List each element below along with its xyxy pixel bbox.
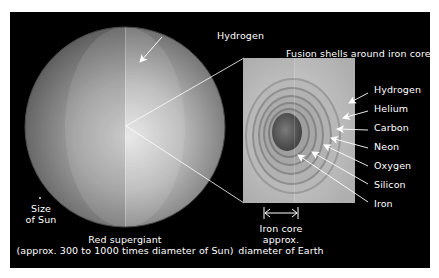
fusion-shells-inset bbox=[243, 58, 355, 203]
iron-core-caption-line1: Iron core bbox=[231, 223, 331, 234]
core-size-bracket bbox=[264, 207, 298, 219]
red-supergiant-sphere bbox=[25, 27, 225, 227]
outer-hydrogen-label: Hydrogen bbox=[217, 30, 264, 41]
shell-label-hydrogen: Hydrogen bbox=[374, 84, 421, 95]
red-supergiant-caption: Red supergiant (approx. 300 to 1000 time… bbox=[10, 234, 240, 256]
sun-size-label: Size of Sun bbox=[20, 203, 62, 225]
shell-label-helium: Helium bbox=[374, 103, 408, 114]
red-supergiant-caption-line1: Red supergiant bbox=[10, 234, 240, 245]
sun-size-label-line2: of Sun bbox=[20, 214, 62, 225]
red-supergiant-caption-line2: (approx. 300 to 1000 times diameter of S… bbox=[10, 245, 240, 256]
shell-label-oxygen: Oxygen bbox=[374, 160, 411, 171]
shell-label-iron: Iron bbox=[374, 198, 393, 209]
sun-size-label-line1: Size bbox=[20, 203, 62, 214]
shell-label-carbon: Carbon bbox=[374, 122, 409, 133]
sun-size-dot bbox=[39, 197, 41, 199]
iron-core-caption-line3: diameter of Earth bbox=[231, 245, 331, 256]
iron-core bbox=[272, 113, 302, 151]
shell-label-silicon: Silicon bbox=[374, 179, 406, 190]
inset-title: Fusion shells around iron core bbox=[286, 48, 430, 59]
iron-core-caption: Iron core approx. diameter of Earth bbox=[231, 223, 331, 256]
diagram-frame: Hydrogen Fusion shells around iron core … bbox=[10, 12, 430, 268]
iron-core-caption-line2: approx. bbox=[231, 234, 331, 245]
shell-label-neon: Neon bbox=[374, 141, 399, 152]
